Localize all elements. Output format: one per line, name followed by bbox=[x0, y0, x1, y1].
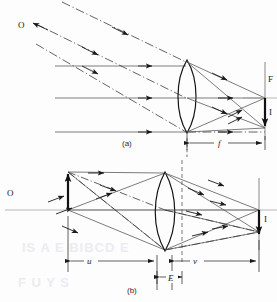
figure-canvas: IS A E BIBCD E F U Y S bbox=[0, 0, 277, 302]
dimension-focal-length bbox=[187, 136, 265, 150]
panel-a: O F I f (a) bbox=[18, 2, 277, 157]
label-object-a: O bbox=[18, 20, 25, 30]
label-lens-thickness: E bbox=[167, 273, 174, 283]
panel-b-incident-arrowheads bbox=[48, 173, 116, 233]
label-image-a: I bbox=[269, 107, 272, 117]
svg-text:F U Y S: F U Y S bbox=[18, 275, 70, 290]
dimension-image-distance bbox=[175, 255, 256, 267]
ray-chain-a1 bbox=[62, 2, 186, 62]
ray-chain-a2 bbox=[36, 24, 186, 98]
label-object-b: O bbox=[7, 188, 14, 198]
panel-b-refracted-arrowheads bbox=[186, 180, 228, 236]
caption-panel-b: (b) bbox=[127, 286, 137, 295]
dimension-object-distance bbox=[71, 255, 154, 267]
panel-a-parallel-rays-solid bbox=[55, 66, 186, 132]
object-direction-arrow-a bbox=[33, 23, 48, 30]
panel-a-parallel-ray-arrowheads bbox=[138, 66, 152, 132]
panel-a-oblique-rays-chain bbox=[36, 2, 186, 132]
label-image-distance: v bbox=[193, 256, 197, 266]
label-image-b: I bbox=[264, 214, 267, 224]
lens-a bbox=[178, 60, 196, 133]
svg-text:IS A E BIBCD E: IS A E BIBCD E bbox=[22, 240, 130, 255]
panel-b-refracted-rays bbox=[165, 173, 259, 250]
panel-a-oblique-ray-arrowheads bbox=[82, 27, 128, 74]
label-focal-point-a: F bbox=[268, 74, 273, 84]
page-showthrough: IS A E BIBCD E F U Y S bbox=[18, 240, 130, 290]
panel-a-converging-ray-arrowheads bbox=[212, 73, 242, 132]
optics-figure: IS A E BIBCD E F U Y S bbox=[0, 0, 277, 302]
panel-a-converging-rays bbox=[187, 62, 265, 132]
label-object-distance: u bbox=[87, 256, 92, 266]
ray-chain-a3 bbox=[36, 44, 186, 132]
caption-panel-a: (a) bbox=[122, 139, 132, 148]
